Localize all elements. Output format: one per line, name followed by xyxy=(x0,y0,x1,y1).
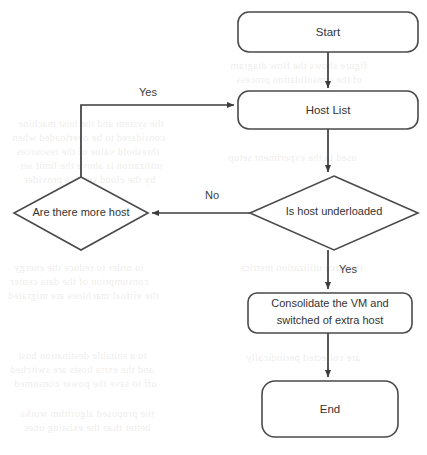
edge-morehost-to-hostlist: Yes xyxy=(81,86,234,177)
node-consolidate[interactable]: Consolidate the VM and switched of extra… xyxy=(248,293,412,333)
node-is-host-underloaded-label: Is host underloaded xyxy=(286,205,383,217)
edge-label-yes-loop: Yes xyxy=(139,86,157,98)
node-end-label: End xyxy=(320,403,340,415)
edge-underloaded-to-consolidate: Yes xyxy=(328,250,357,289)
node-consolidate-label-line1: Consolidate the VM and xyxy=(271,297,388,309)
flowchart-canvas: the system and the host machineconsidere… xyxy=(0,0,427,455)
node-start-label: Start xyxy=(316,26,341,38)
node-start[interactable]: Start xyxy=(238,12,418,52)
edge-label-no: No xyxy=(205,189,219,201)
node-host-list-label: Host List xyxy=(306,104,352,116)
edge-underloaded-to-morehost: No xyxy=(152,189,250,213)
edge-label-yes-down: Yes xyxy=(339,263,357,275)
node-end[interactable]: End xyxy=(262,381,398,437)
flowchart-svg: No Yes Yes Start Host List xyxy=(0,0,427,455)
node-is-host-underloaded[interactable]: Is host underloaded xyxy=(250,176,418,250)
node-are-there-more-host[interactable]: Are there more host xyxy=(14,177,148,250)
node-are-there-more-host-label: Are there more host xyxy=(32,206,129,218)
node-consolidate-label-line2: switched of extra host xyxy=(277,314,383,326)
node-host-list[interactable]: Host List xyxy=(238,91,418,129)
